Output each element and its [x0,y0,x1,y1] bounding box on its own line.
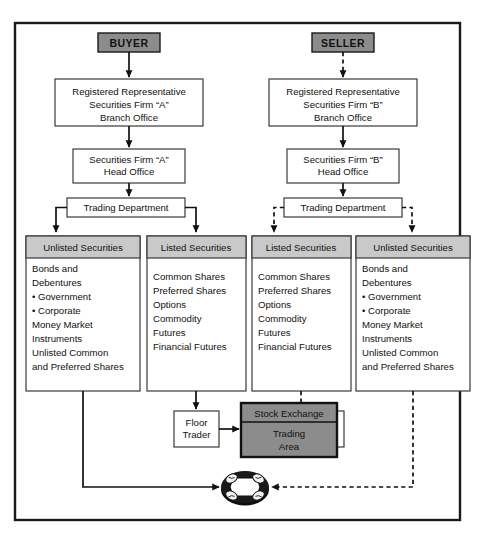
buyer-branch-line-3: Branch Office [100,112,158,123]
buyer-floor-trader-box: Floor Trader [174,411,219,447]
seller-head-office-box: Securities Firm “B” Head Office [287,149,399,183]
round-table-icon [221,471,269,506]
seller-branch-line-1: Registered Representative [286,86,400,97]
buyer-unlisted-item-0: Bonds and [32,263,78,274]
seller-unlisted-item-3: • Corporate [362,305,411,316]
buyer-listed-header: Listed Securities [161,242,232,253]
stock-exchange-body-line-1: Trading [273,428,305,439]
seller-branch-line-3: Branch Office [314,112,372,123]
stock-exchange-box: Stock Exchange Trading Area [241,403,337,457]
buyer-listed-item-1: Preferred Shares [153,285,226,296]
buyer-listed-item-0: Common Shares [153,271,225,282]
seller-unlisted-securities-panel: Unlisted Securities Bonds and Debentures… [356,236,470,391]
buyer-listed-item-3: Commodity [153,313,202,324]
buyer-floor-trader-line-1: Floor [186,417,209,428]
seller-trading-department-label: Trading Department [301,202,386,213]
buyer-branch-line-1: Registered Representative [72,86,186,97]
seller-listed-item-1: Preferred Shares [258,285,331,296]
seller-listed-item-2: Options [258,299,291,310]
buyer-unlisted-item-5: Instruments [32,333,82,344]
seller-head-line-1: Securities Firm “B” [303,154,382,165]
seller-head-line-2: Head Office [318,166,368,177]
buyer-floor-trader-line-2: Trader [183,429,212,440]
seller-listed-item-5: Financial Futures [258,341,332,352]
buyer-head-office-box: Securities Firm “A” Head Office [73,149,185,183]
seller-listed-header: Listed Securities [266,242,337,253]
buyer-trading-department-label: Trading Department [84,202,169,213]
seller-listed-item-0: Common Shares [258,271,330,282]
buyer-head-line-2: Head Office [104,166,154,177]
seller-trading-department-box: Trading Department [284,198,402,217]
seller-branch-office-box: Registered Representative Securities Fir… [269,79,417,126]
buyer-unlisted-item-7: and Preferred Shares [32,361,124,372]
stock-exchange-body-line-2: Area [279,441,300,452]
seller-branch-line-2: Securities Firm “B” [303,99,382,110]
seller-listed-item-3: Commodity [258,313,307,324]
seller-unlisted-item-0: Bonds and [362,263,408,274]
stock-exchange-header: Stock Exchange [254,408,323,419]
buyer-listed-item-4: Futures [153,327,186,338]
seller-unlisted-header: Unlisted Securities [373,242,453,253]
seller-unlisted-item-2: • Government [362,291,421,302]
buyer-listed-securities-panel: Listed Securities Common Shares Preferre… [147,236,246,391]
seller-listed-securities-panel: Listed Securities Common Shares Preferre… [252,236,351,391]
buyer-listed-item-5: Financial Futures [153,341,227,352]
seller-unlisted-item-1: Debentures [362,277,412,288]
buyer-unlisted-securities-panel: Unlisted Securities Bonds and Debentures… [26,236,140,391]
seller-unlisted-item-6: Unlisted Common [362,347,438,358]
buyer-head-line-1: Securities Firm “A” [89,154,168,165]
buyer-party-label: BUYER [110,37,149,49]
seller-party-label: SELLER [321,37,365,49]
seller-listed-item-4: Futures [258,327,291,338]
seller-party-box: SELLER [312,33,374,52]
buyer-unlisted-item-1: Debentures [32,277,82,288]
seller-unlisted-item-4: Money Market [362,319,423,330]
seller-unlisted-item-7: and Preferred Shares [362,361,454,372]
securities-trading-flowchart: BUYER Registered Representative Securiti… [0,0,479,537]
buyer-unlisted-item-2: • Government [32,291,91,302]
seller-unlisted-item-5: Instruments [362,333,412,344]
buyer-unlisted-item-4: Money Market [32,319,93,330]
buyer-branch-office-box: Registered Representative Securities Fir… [55,79,203,126]
buyer-listed-item-2: Options [153,299,186,310]
buyer-party-box: BUYER [98,33,160,52]
buyer-unlisted-header: Unlisted Securities [43,242,123,253]
buyer-branch-line-2: Securities Firm “A” [89,99,168,110]
buyer-unlisted-item-6: Unlisted Common [32,347,108,358]
buyer-trading-department-box: Trading Department [67,198,185,217]
buyer-unlisted-item-3: • Corporate [32,305,81,316]
